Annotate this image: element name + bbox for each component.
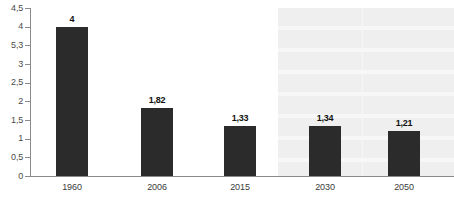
bar-column: 1,33 xyxy=(224,8,256,176)
x-axis-line xyxy=(30,176,454,177)
bar-column: 1,34 xyxy=(309,8,341,176)
x-axis-category-label: 2030 xyxy=(300,182,350,192)
x-axis-category-label: 2006 xyxy=(132,182,182,192)
x-axis-category-label: 2050 xyxy=(379,182,429,192)
y-axis-tick-mark xyxy=(25,176,30,177)
bar-column: 1,82 xyxy=(141,8,173,176)
bar-chart: 00,511,522,535,344,5 41,821,331,341,21 1… xyxy=(0,0,454,203)
bar-value-label: 4 xyxy=(56,14,88,24)
bar-value-label: 1,34 xyxy=(309,113,341,123)
x-axis-category-label: 2015 xyxy=(215,182,265,192)
bar-value-label: 1,82 xyxy=(141,95,173,105)
bar xyxy=(388,131,420,176)
bar-value-label: 1,21 xyxy=(388,118,420,128)
bar-column: 1,21 xyxy=(388,8,420,176)
bar xyxy=(309,126,341,176)
bar xyxy=(224,126,256,176)
bar-value-label: 1,33 xyxy=(224,113,256,123)
x-axis-category-label: 1960 xyxy=(47,182,97,192)
bar xyxy=(56,27,88,176)
bar-column: 4 xyxy=(56,8,88,176)
bar xyxy=(141,108,173,176)
bars-layer: 41,821,331,341,21 xyxy=(0,8,454,176)
